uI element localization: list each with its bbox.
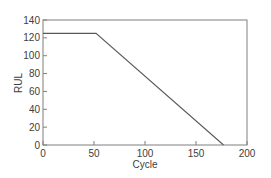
plot-area [43, 20, 247, 145]
rul-line [43, 33, 224, 145]
x-tick-label: 100 [137, 148, 154, 159]
y-axis-label: RUL [13, 73, 24, 93]
y-tick-label: 40 [29, 104, 41, 115]
y-tick-label: 80 [29, 68, 41, 79]
y-tick-label: 100 [23, 50, 40, 61]
y-tick-label: 20 [29, 122, 41, 133]
x-axis: 050100150200 [40, 141, 256, 159]
plot-border [43, 20, 247, 145]
x-tick-label: 50 [88, 148, 100, 159]
series-lines [43, 33, 224, 145]
x-tick-label: 150 [188, 148, 205, 159]
y-tick-label: 140 [23, 15, 40, 26]
y-tick-label: 60 [29, 86, 41, 97]
rul-chart: 020406080100120140 050100150200 RUL Cycl… [0, 0, 271, 178]
x-tick-label: 0 [40, 148, 46, 159]
y-tick-label: 120 [23, 32, 40, 43]
x-tick-label: 200 [239, 148, 256, 159]
x-axis-label: Cycle [132, 159, 157, 170]
